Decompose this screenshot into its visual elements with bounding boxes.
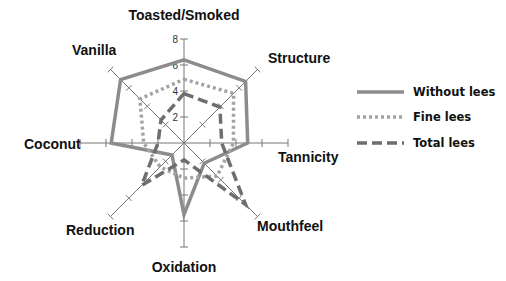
- axis-label-vanilla: Vanilla: [72, 42, 117, 58]
- tick-label-2: 2: [172, 112, 178, 123]
- series-layer: [111, 60, 248, 215]
- legend-label-without-lees: Without lees: [413, 85, 495, 99]
- axis-label-tannicity: Tannicity: [278, 149, 339, 165]
- legend-label-fine-lees: Fine lees: [413, 110, 471, 124]
- tick-label-4: 4: [172, 86, 178, 97]
- axis-label-reduction: Reduction: [66, 222, 134, 238]
- radar-chart: 2468 Toasted/Smoked Structure Tannicity …: [0, 0, 506, 281]
- axis-label-oxidation: Oxidation: [152, 259, 217, 275]
- axis-label-mouthfeel: Mouthfeel: [257, 218, 323, 234]
- legend: Without lees Fine lees Total lees: [357, 85, 495, 150]
- legend-label-total-lees: Total lees: [413, 136, 475, 150]
- tick-label-8: 8: [172, 34, 178, 45]
- axis-label-structure: Structure: [268, 50, 330, 66]
- axis-label-coconut: Coconut: [24, 136, 81, 152]
- axis-label-toasted-smoked: Toasted/Smoked: [129, 7, 240, 23]
